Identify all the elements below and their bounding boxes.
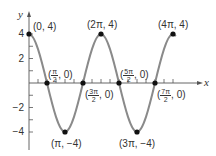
y-tick-neg4: −4: [4, 126, 24, 137]
label-0-4: (0, 4): [33, 22, 56, 32]
label-2pi-4: (2π, 4): [87, 20, 117, 30]
label-4pi-4: (4π, 4): [158, 20, 188, 30]
y-tick-neg2: −2: [4, 102, 24, 113]
label-7pi2-0: (7π2, 0): [157, 88, 186, 103]
y-tick-4: 4: [4, 28, 24, 39]
y-tick-2: 2: [4, 53, 24, 64]
x-axis-label: x: [204, 76, 209, 88]
label-pi2-0: (π2, 0): [48, 68, 73, 83]
label-pi-neg4: (π, −4): [51, 139, 82, 149]
point-2pi-4: [98, 31, 103, 36]
label-3pi-neg4: (3π, −4): [119, 139, 155, 149]
point-0-4: [26, 31, 31, 36]
point-4pi-4: [170, 31, 175, 36]
y-axis-arrow-icon: [27, 11, 31, 17]
point-3pi2-0: [80, 80, 85, 85]
x-axis-arrow-icon: [197, 81, 203, 85]
point-pi-m4: [62, 129, 67, 134]
point-7pi2-0: [152, 80, 157, 85]
label-3pi2-0: (3π2, 0): [85, 88, 114, 103]
label-5pi2-0: (5π2, 0): [120, 68, 149, 83]
y-axis-label: y: [18, 8, 23, 20]
point-3pi-m4: [134, 129, 139, 134]
